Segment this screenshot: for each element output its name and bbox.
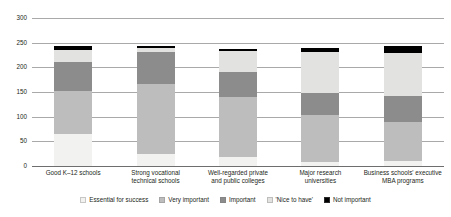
y-tick-label-300: 300	[16, 15, 27, 21]
bar-group	[362, 18, 444, 166]
x-axis-labels: Good K–12 schoolsStrong vocationaltechni…	[32, 169, 444, 195]
x-tick-label-line: Good K–12 schools	[32, 169, 114, 177]
legend-swatch	[267, 197, 273, 203]
legend-swatch	[220, 197, 226, 203]
stacked-bar-chart: 050100150200250300 Good K–12 schoolsStro…	[0, 0, 451, 217]
bar-segment[interactable]	[54, 46, 92, 49]
plot-area	[32, 18, 444, 166]
x-tick-label-line: and public colleges	[197, 177, 279, 185]
bar-segment[interactable]	[54, 91, 92, 134]
bar-segment[interactable]	[301, 162, 339, 166]
bar-segment[interactable]	[384, 96, 422, 122]
y-tick-label-200: 200	[16, 64, 27, 70]
bar-segment[interactable]	[384, 46, 422, 53]
bar-segment[interactable]	[384, 122, 422, 161]
y-tick-label-100: 100	[16, 114, 27, 120]
bar-segment[interactable]	[137, 52, 175, 84]
bar-segment[interactable]	[301, 48, 339, 52]
x-tick-label-line: Business schools' executive	[362, 169, 444, 177]
bar-series-container	[32, 18, 444, 166]
bar-segment[interactable]	[219, 157, 257, 166]
bar-segment[interactable]	[219, 97, 257, 157]
legend-label: Very important	[168, 196, 209, 203]
x-tick-label-line: Major research	[279, 169, 361, 177]
legend-label: Important	[229, 196, 256, 203]
x-tick-label-line: MBA programs	[362, 177, 444, 185]
y-tick-label-50: 50	[20, 138, 27, 144]
stacked-bar[interactable]	[301, 18, 339, 166]
legend-swatch	[159, 197, 165, 203]
stacked-bar[interactable]	[384, 18, 422, 166]
bar-segment[interactable]	[137, 154, 175, 166]
bar-segment[interactable]	[54, 62, 92, 91]
legend-item[interactable]: Essential for success	[80, 196, 148, 203]
x-tick-label: Business schools' executiveMBA programs	[362, 169, 444, 185]
legend-swatch	[80, 197, 86, 203]
bar-group	[279, 18, 361, 166]
y-axis-labels: 050100150200250300	[0, 18, 30, 166]
bar-group	[114, 18, 196, 166]
legend-item[interactable]: Not important	[324, 196, 371, 203]
gridline-0	[32, 166, 444, 167]
x-tick-label-line: technical schools	[114, 177, 196, 185]
bar-segment[interactable]	[384, 53, 422, 96]
y-tick-label-0: 0	[23, 163, 27, 169]
bar-segment[interactable]	[219, 51, 257, 72]
chart-legend: Essential for successVery importantImpor…	[0, 196, 451, 203]
x-tick-label-line: Strong vocational	[114, 169, 196, 177]
bar-segment[interactable]	[219, 49, 257, 51]
x-tick-label-line: Well-regarded private	[197, 169, 279, 177]
bar-segment[interactable]	[301, 115, 339, 162]
stacked-bar[interactable]	[54, 18, 92, 166]
bar-group	[197, 18, 279, 166]
x-tick-label: Major researchuniversities	[279, 169, 361, 185]
bar-segment[interactable]	[137, 84, 175, 154]
bar-segment[interactable]	[54, 50, 92, 63]
bar-segment[interactable]	[137, 46, 175, 48]
x-tick-label: Good K–12 schools	[32, 169, 114, 177]
stacked-bar[interactable]	[219, 18, 257, 166]
legend-swatch	[324, 197, 330, 203]
legend-label: 'Nice to have'	[276, 196, 313, 203]
bar-segment[interactable]	[384, 161, 422, 166]
bar-segment[interactable]	[301, 52, 339, 93]
bar-segment[interactable]	[54, 134, 92, 166]
y-tick-label-150: 150	[16, 89, 27, 95]
legend-label: Not important	[333, 196, 371, 203]
bar-segment[interactable]	[137, 48, 175, 52]
legend-item[interactable]: Important	[220, 196, 256, 203]
x-tick-label: Well-regarded privateand public colleges	[197, 169, 279, 185]
bar-segment[interactable]	[301, 93, 339, 115]
bar-segment[interactable]	[219, 72, 257, 97]
legend-label: Essential for success	[89, 196, 148, 203]
bar-group	[32, 18, 114, 166]
x-tick-label-line: universities	[279, 177, 361, 185]
x-tick-label: Strong vocationaltechnical schools	[114, 169, 196, 185]
legend-item[interactable]: 'Nice to have'	[267, 196, 313, 203]
legend-item[interactable]: Very important	[159, 196, 209, 203]
stacked-bar[interactable]	[137, 18, 175, 166]
y-tick-label-250: 250	[16, 40, 27, 46]
